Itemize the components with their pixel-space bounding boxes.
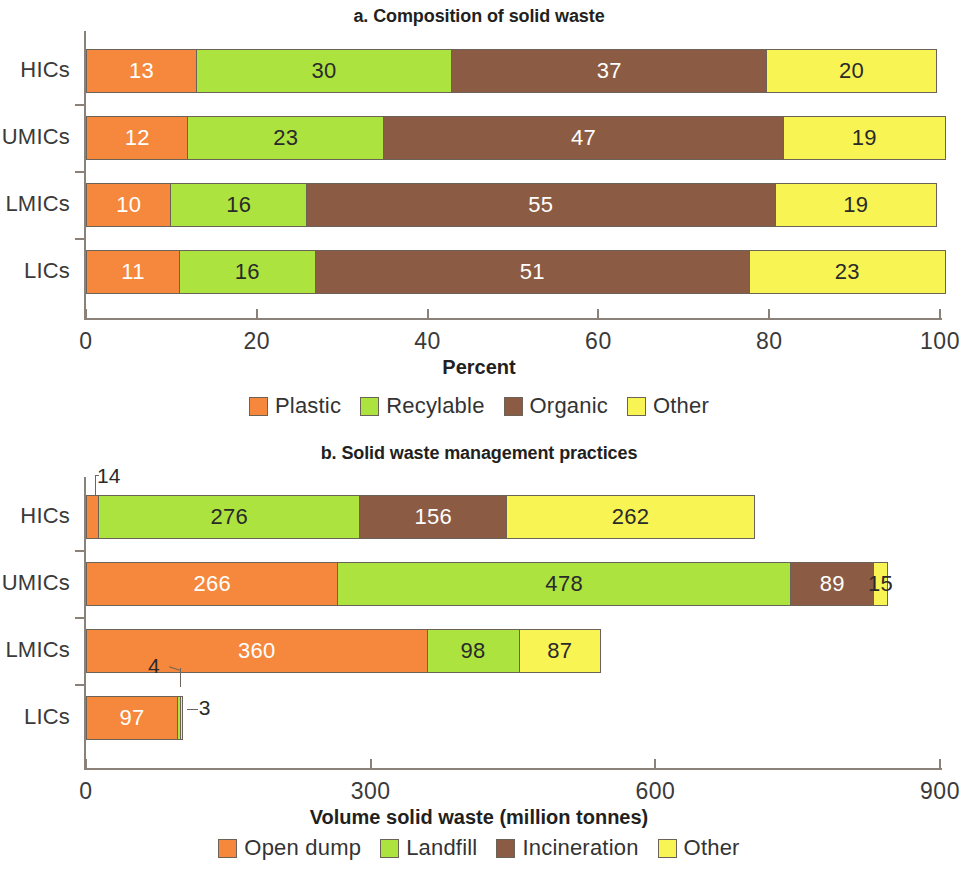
bar-row[interactable]: 13303720 [86,49,937,93]
legend-swatch-icon [658,839,677,858]
legend-label: Organic [530,393,608,419]
bar-value-label: 360 [238,640,276,662]
callout-leader-line [180,668,181,687]
bar-segment[interactable]: 19 [775,183,937,227]
x-axis-tick [939,759,941,768]
bar-value-label: 266 [193,573,231,595]
bar-segment[interactable]: 47 [383,116,784,160]
bar-row[interactable]: 3609887 [86,629,601,673]
x-axis-tick-label: 40 [414,328,441,355]
y-axis-tick [75,617,85,619]
panel-a-legend: PlasticRecylableOrganicOther [0,393,958,419]
legend-item[interactable]: Other [658,835,740,861]
category-label-lics: LICs [0,258,70,284]
legend-item[interactable]: Plastic [249,393,341,419]
legend-label: Open dump [244,835,361,861]
bar-value-label: 16 [235,261,260,283]
y-axis-tick [75,684,85,686]
panel-composition-of-solid-waste: a. Composition of solid waste 0204060801… [0,0,958,437]
x-axis-tick-label: 600 [635,778,675,805]
bar-segment[interactable]: 360 [86,629,428,673]
bar-segment[interactable]: 20 [766,49,937,93]
bar-segment[interactable] [180,696,183,740]
bar-segment[interactable]: 23 [749,250,945,294]
bar-value-label: 262 [612,506,650,528]
bar-segment[interactable]: 266 [86,562,338,606]
panel-solid-waste-management-practices: b. Solid waste management practices 0300… [0,437,958,875]
bar-segment[interactable]: 89 [790,562,874,606]
legend-label: Incineration [522,835,638,861]
bar-segment[interactable]: 97 [86,696,178,740]
bar-segment[interactable]: 37 [451,49,767,93]
bar-value-label: 55 [528,194,553,216]
x-axis-tick-label: 0 [79,328,92,355]
bar-segment[interactable]: 156 [359,495,507,539]
panel-b-legend: Open dumpLandfillIncinerationOther [0,835,958,861]
legend-label: Plastic [275,393,341,419]
bar-row[interactable]: 11165123 [86,250,946,294]
bar-segment[interactable]: 478 [337,562,791,606]
legend-swatch-icon [218,839,237,858]
legend-label: Landfill [406,835,477,861]
bar-segment[interactable]: 51 [315,250,751,294]
bar-segment[interactable]: 10 [86,183,171,227]
bar-row[interactable]: 2664788915 [86,562,888,606]
bar-row[interactable]: 10165519 [86,183,937,227]
bar-row[interactable]: 276156262 [86,495,755,539]
legend-item[interactable]: Incineration [496,835,638,861]
x-axis-tick-label: 0 [79,778,92,805]
bar-value-label: 20 [839,60,864,82]
legend-item[interactable]: Open dump [218,835,361,861]
bar-row[interactable]: 12234719 [86,116,946,160]
bar-value-label: 11 [121,261,144,283]
bar-segment[interactable]: 16 [170,183,307,227]
legend-swatch-icon [249,397,268,416]
bar-value-label: 10 [116,194,141,216]
bar-segment[interactable]: 13 [86,49,197,93]
bar-segment[interactable] [86,495,99,539]
category-label-hics: HICs [0,503,70,529]
callout-leader-line [95,475,99,476]
legend-item[interactable]: Other [627,393,709,419]
legend-swatch-icon [504,397,523,416]
x-axis-tick-label: 60 [585,328,612,355]
callout-leader-line [95,475,96,495]
bar-segment[interactable]: 11 [86,250,180,294]
bar-segment[interactable]: 23 [187,116,383,160]
legend-label: Other [653,393,709,419]
category-label-hics: HICs [0,57,70,83]
bar-value-label: 19 [843,194,868,216]
bar-row[interactable]: 97 [86,696,183,740]
bar-segment[interactable]: 30 [196,49,452,93]
legend-swatch-icon [380,839,399,858]
x-axis-tick [768,309,770,318]
bar-segment[interactable]: 19 [783,116,945,160]
x-axis-line [84,318,942,320]
bar-segment[interactable]: 12 [86,116,188,160]
legend-swatch-icon [627,397,646,416]
y-axis-tick [75,171,85,173]
bar-segment[interactable]: 55 [306,183,776,227]
x-axis-tick-label: 80 [756,328,783,355]
x-axis-tick [370,759,372,768]
x-axis-tick [654,759,656,768]
x-axis-tick [85,309,87,318]
category-label-lmics: LMICs [0,191,70,217]
bar-segment[interactable]: 262 [506,495,755,539]
bar-value-label: 37 [597,60,622,82]
x-axis-tick [427,309,429,318]
bar-segment[interactable]: 16 [179,250,316,294]
bar-value-label: 23 [835,261,860,283]
bar-segment[interactable]: 276 [98,495,360,539]
x-axis-tick [256,309,258,318]
legend-item[interactable]: Landfill [380,835,477,861]
bar-value-label: 98 [461,640,486,662]
legend-item[interactable]: Recylable [360,393,484,419]
legend-item[interactable]: Organic [504,393,608,419]
bar-segment[interactable]: 15 [873,562,887,606]
bar-segment[interactable]: 98 [427,629,520,673]
bar-value-label: 13 [129,60,154,82]
legend-swatch-icon [360,397,379,416]
bar-segment[interactable]: 87 [519,629,602,673]
panel-a-x-axis-title: Percent [0,356,958,379]
